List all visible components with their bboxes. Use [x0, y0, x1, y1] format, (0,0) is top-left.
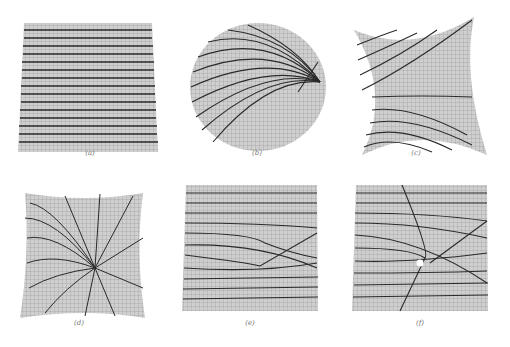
- caption-c: (c): [396, 149, 436, 157]
- panel-a: [18, 22, 163, 157]
- panel-e-surface: [180, 183, 320, 313]
- caption-d: (d): [59, 319, 99, 327]
- panel-b-surface: [188, 22, 328, 152]
- panel-c: [352, 15, 492, 155]
- caption-f: (f): [400, 319, 440, 327]
- panel-c-surface: [352, 15, 492, 155]
- panel-a-surface: [18, 22, 163, 157]
- panel-d-surface: [15, 188, 155, 323]
- panel-f: [350, 183, 490, 313]
- panel-d: [15, 188, 155, 323]
- hole-marker: [417, 260, 424, 267]
- panel-e: [180, 183, 320, 313]
- panel-f-surface: [350, 183, 490, 313]
- caption-b: (b): [237, 149, 277, 157]
- panel-b: [188, 22, 328, 152]
- caption-a: (a): [70, 149, 110, 157]
- caption-e: (e): [230, 319, 270, 327]
